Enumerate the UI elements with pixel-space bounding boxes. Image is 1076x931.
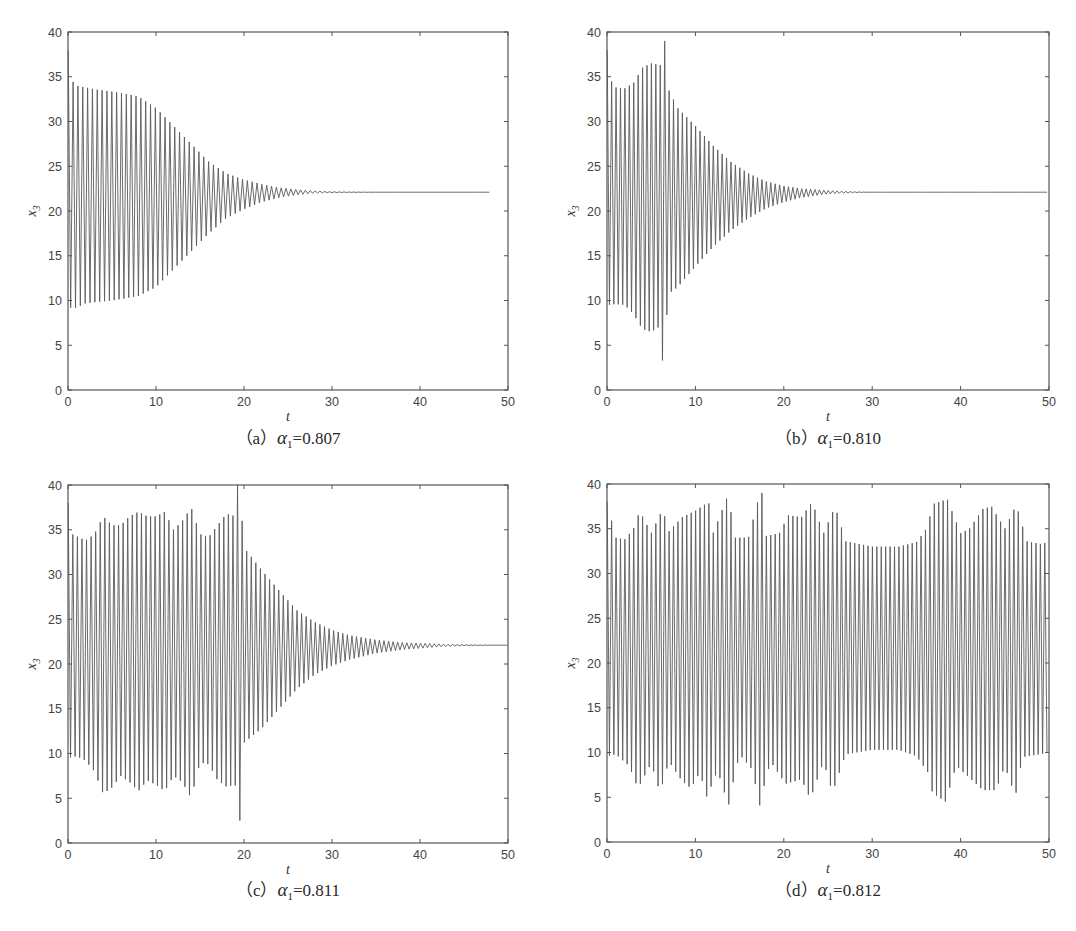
caption-prefix: （d）: [775, 881, 818, 900]
y-tick-label: 5: [594, 791, 601, 805]
param-value: =0.812: [833, 881, 881, 900]
x-tick-label: 0: [604, 847, 611, 861]
y-axis-label: x3: [563, 657, 581, 669]
y-tick-label: 40: [587, 478, 601, 492]
x-axis-label: t: [826, 861, 831, 876]
y-tick-label: 0: [594, 836, 601, 850]
x-tick-label: 50: [1042, 847, 1056, 861]
x-tick-label: 20: [777, 847, 791, 861]
signal-line-d: [607, 493, 1047, 805]
x-tick-label: 30: [865, 847, 879, 861]
param-symbol: α: [818, 879, 828, 900]
y-tick-label: 15: [587, 701, 601, 715]
subplot-d: 010203040500510152025303540tx3 （d）α1=0.8…: [0, 0, 1076, 931]
y-tick-label: 35: [587, 522, 601, 536]
y-tick-label: 10: [587, 746, 601, 760]
y-tick-label: 20: [587, 657, 601, 671]
caption-d: （d）α1=0.812: [775, 876, 881, 902]
x-tick-label: 10: [688, 847, 702, 861]
plot-area-d: 010203040500510152025303540tx3: [0, 0, 1076, 931]
x-tick-label: 40: [954, 847, 968, 861]
y-tick-label: 30: [587, 567, 601, 581]
y-tick-label: 25: [587, 612, 601, 626]
